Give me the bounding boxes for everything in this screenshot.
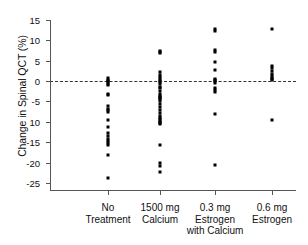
data-point [214,29,217,32]
x-axis-spine [50,190,296,191]
data-point [159,123,162,126]
y-axis-tick: 0 [46,81,51,82]
data-point [107,93,110,96]
data-point [159,143,162,146]
x-axis-tick-label: 0.6 mg Estrogen [227,202,308,225]
x-axis-tick [160,190,161,195]
y-axis-tick: -25 [46,183,51,184]
y-axis-tick-label: 10 [29,35,40,46]
data-point [214,91,217,94]
y-axis-tick: -15 [46,142,51,143]
data-point [271,27,274,30]
data-point [214,163,217,166]
y-axis-tick: -5 [46,101,51,102]
data-point [107,110,110,113]
y-axis-tick-label: -5 [32,96,40,107]
x-axis-tick [108,190,109,195]
scatter-plot-figure: Change in Spinal QCT (%) 151050-510-15-2… [0,0,308,245]
data-point [159,52,162,55]
data-point [107,154,110,157]
y-axis-tick-label: -25 [26,177,40,188]
data-point [107,84,110,87]
data-point [159,165,162,168]
x-axis-tick [272,190,273,195]
y-axis-tick: 10 [46,40,51,41]
y-axis-tick-label: 15 [29,15,40,26]
zero-reference-line [50,81,296,82]
y-axis-tick-label: -20 [26,157,40,168]
data-point [214,61,217,64]
x-axis-tick [215,190,216,195]
y-axis-tick-label: -15 [26,137,40,148]
y-axis-tick-label: 5 [35,55,40,66]
data-point [107,119,110,122]
data-point [214,68,217,71]
data-point [159,170,162,173]
data-point [214,81,217,84]
data-point [107,144,110,147]
y-axis-tick: -20 [46,163,51,164]
y-axis-tick: 15 [46,20,51,21]
data-point [214,51,217,54]
y-axis-tick: 5 [46,61,51,62]
y-axis-tick-label: 10 [29,116,40,127]
data-point [107,126,110,129]
y-axis-tick: 10 [46,122,51,123]
y-axis-spine [50,20,51,191]
data-point [107,177,110,180]
data-point [214,113,217,116]
data-point [271,79,274,82]
plot-area: 151050-510-15-20-25 No Treatment1500 mg … [50,20,295,190]
y-axis-tick-label: 0 [35,76,40,87]
data-point [271,118,274,121]
